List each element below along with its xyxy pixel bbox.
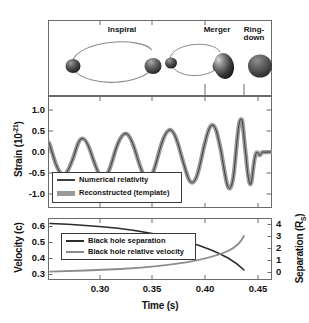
black-hole-inspiral-1-left: [66, 59, 81, 73]
label-ringdown-line2: down: [238, 34, 270, 43]
strain-y-axis-title: Strain (10-21): [12, 99, 24, 199]
black-hole-inspiral-2-left: [165, 57, 177, 68]
separation-ytick-5: 0: [276, 266, 288, 277]
separation-axis-title-text: Separation (R: [294, 221, 305, 283]
label-inspiral: Inspiral: [92, 26, 152, 35]
legend-swatch-numerical-relativity: [57, 179, 75, 181]
legend-swatch-black-hole-separation: [66, 240, 84, 242]
legend-swatch-black-hole-relative-velocity: [66, 251, 84, 253]
separation-axis-title-close: ): [294, 214, 305, 217]
strain-panel: Numerical relativity Reconstructed (temp…: [48, 96, 272, 208]
velocity-axis-title-wrap: Velocity (c): [0, 242, 68, 256]
time-xtick-4: 0.45: [240, 283, 276, 294]
illustration-panel: Inspiral Merger Ring- down: [48, 20, 272, 96]
dynamics-legend: Black hole separation Black hole relativ…: [61, 233, 196, 260]
strain-y-axis-title-text: Strain (10: [13, 133, 24, 177]
legend-swatch-reconstructed-template: [57, 191, 75, 196]
legend-label-black-hole-relative-velocity: Black hole relative velocity: [88, 247, 184, 256]
separation-axis-title-wrap: Separation (RS): [240, 242, 309, 256]
legend-label-numerical-relativity: Numerical relativity: [79, 175, 148, 184]
strain-y-axis-title-exponent: -21: [12, 125, 19, 134]
separation-axis-title: Separation (RS): [294, 189, 307, 309]
strain-y-axis-title-wrap: Strain (10-21): [0, 143, 68, 157]
separation-ytick-1: 4: [276, 218, 288, 229]
velocity-axis-title: Velocity (c): [13, 198, 24, 298]
black-hole-ringdown: [248, 55, 272, 78]
dynamics-panel: Black hole separation Black hole relativ…: [48, 218, 272, 280]
gravitational-wave-figure: Inspiral Merger Ring- down: [0, 0, 309, 323]
legend-label-reconstructed-template: Reconstructed (template): [79, 188, 169, 197]
strain-y-axis-title-close: ): [13, 121, 24, 124]
time-axis-title: Time (s): [48, 300, 272, 311]
separation-axis-title-subscript: S: [300, 217, 307, 221]
separation-ytick-2: 3: [276, 230, 288, 241]
legend-label-black-hole-separation: Black hole separation: [88, 236, 166, 245]
time-xtick-3: 0.40: [187, 283, 223, 294]
time-xtick-2: 0.35: [134, 283, 170, 294]
black-hole-inspiral-1-right: [145, 58, 162, 74]
strain-legend: Numerical relativity Reconstructed (temp…: [52, 172, 182, 203]
time-xtick-1: 0.30: [82, 283, 118, 294]
label-merger: Merger: [198, 26, 236, 35]
